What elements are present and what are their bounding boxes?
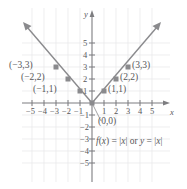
equation-or: | or xyxy=(125,136,140,146)
x-tick-3: 3 xyxy=(126,107,130,116)
curve-left-arrow xyxy=(23,22,32,31)
data-point xyxy=(66,77,71,82)
point-label-0-0: (0,0) xyxy=(98,117,116,127)
equation-annotation: f(x) = |x| or y = |x| xyxy=(96,137,162,147)
point-label-neg2-2: (−2,2) xyxy=(21,73,45,83)
x-tick-neg-5: −5 xyxy=(26,107,35,116)
data-point xyxy=(126,65,131,70)
point-label-neg1-1: (−1,1) xyxy=(33,85,57,95)
curve-right-arrow xyxy=(153,22,162,31)
axes xyxy=(22,14,166,182)
grid-lines xyxy=(22,8,170,182)
data-point xyxy=(102,89,107,94)
data-point xyxy=(114,77,119,82)
point-label-1-1: (1,1) xyxy=(108,85,126,95)
graph-canvas xyxy=(0,0,187,189)
y-tick-neg-2: −2 xyxy=(80,123,89,132)
x-axis-label: x xyxy=(170,108,174,117)
x-tick-neg-2: −2 xyxy=(62,107,71,116)
y-axis-label: y xyxy=(84,10,88,19)
x-tick-neg-4: −4 xyxy=(38,107,47,116)
x-tick-neg-3: −3 xyxy=(50,107,59,116)
x-tick-5: 5 xyxy=(150,107,154,116)
x-tick-neg-1: −1 xyxy=(74,107,83,116)
y-tick-4: 4 xyxy=(83,51,87,60)
absolute-value-graph-figure: y x 5 4 3 2 1 −1 −2 −3 −4 −5 −5 −4 −3 −2… xyxy=(0,0,187,189)
point-label-neg3-3: (−3,3) xyxy=(9,61,33,71)
y-tick-neg-4: −4 xyxy=(80,147,89,156)
x-axis-arrow xyxy=(163,101,170,106)
y-tick-5: 5 xyxy=(83,39,87,48)
equation-equals-2: = | xyxy=(144,136,156,146)
point-label-3-3: (3,3) xyxy=(132,61,150,71)
y-tick-neg-5: −5 xyxy=(80,159,89,168)
y-tick-1: 1 xyxy=(83,87,87,96)
x-tick-2: 2 xyxy=(114,107,118,116)
y-axis-arrow xyxy=(90,10,95,17)
x-tick-4: 4 xyxy=(138,107,142,116)
y-tick-3: 3 xyxy=(83,63,87,72)
x-tick-1: 1 xyxy=(102,107,106,116)
y-tick-2: 2 xyxy=(83,75,87,84)
point-label-2-2: (2,2) xyxy=(120,73,138,83)
data-point xyxy=(78,89,83,94)
equation-equals-1: = | xyxy=(109,136,121,146)
data-point xyxy=(54,65,59,70)
equation-end-bar: | xyxy=(160,136,162,146)
y-tick-neg-3: −3 xyxy=(80,135,89,144)
